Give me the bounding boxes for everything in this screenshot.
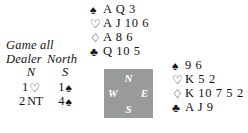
vulnerability-line: Game all <box>6 38 102 52</box>
hand-north-diamonds: ♢A 8 6 <box>90 30 149 44</box>
hand-east-diamonds: ♢K 10 7 5 2 <box>172 86 244 100</box>
spades-icon: ♠ <box>65 96 71 108</box>
hand-east-spades: ♠9 6 <box>172 58 244 72</box>
hearts-icon: ♡ <box>29 82 40 94</box>
conditions-block: Game all DealerNorth <box>6 38 102 66</box>
hearts-icon: ♡ <box>172 74 185 86</box>
hand-north-hearts-cards: A J 10 6 <box>103 16 149 30</box>
hand-east-clubs-cards: A J 9 <box>185 100 214 114</box>
auction-row: 2NT 4♠ <box>14 95 82 109</box>
clubs-icon: ♣ <box>90 46 103 58</box>
hand-east-hearts-cards: K 5 2 <box>185 72 216 86</box>
bid-level: 4 <box>58 94 64 108</box>
auction-row: 1♡ 1♠ <box>14 81 82 95</box>
compass-south-label: S <box>104 104 153 115</box>
hand-north-diamonds-cards: A 8 6 <box>103 30 133 44</box>
hand-east-spades-cards: 9 6 <box>185 58 202 72</box>
compass-north-label: N <box>104 73 153 84</box>
spades-icon: ♠ <box>172 60 185 72</box>
auction-header-north: N <box>14 66 48 81</box>
hand-east: ♠9 6 ♡K 5 2 ♢K 10 7 5 2 ♣A J 9 <box>172 58 244 114</box>
dealer-line: DealerNorth <box>6 52 102 66</box>
hearts-icon: ♡ <box>90 18 103 30</box>
auction-header-row: N S <box>14 66 82 81</box>
hand-north-clubs-cards: Q 10 5 <box>103 44 141 58</box>
dealer-value: North <box>47 52 77 66</box>
notrump-label: NT <box>27 94 43 108</box>
bid-level: 2 <box>19 94 25 108</box>
diamonds-icon: ♢ <box>172 88 185 100</box>
bid-level: 1 <box>58 80 64 94</box>
hand-east-hearts: ♡K 5 2 <box>172 72 244 86</box>
spades-icon: ♠ <box>65 82 71 94</box>
hand-north-spades: ♠A Q 3 <box>90 2 149 16</box>
compass-west-label: W <box>108 88 118 99</box>
compass-box: N W E S <box>104 69 153 118</box>
bid-north-2: 2NT <box>14 95 48 109</box>
clubs-icon: ♣ <box>172 102 185 114</box>
hand-east-clubs: ♣A J 9 <box>172 100 244 114</box>
bid-south-1: 1♠ <box>48 81 82 95</box>
spades-icon: ♠ <box>90 4 103 16</box>
bid-level: 1 <box>22 80 28 94</box>
hand-north-spades-cards: A Q 3 <box>103 2 136 16</box>
auction-table: N S 1♡ 1♠ 2NT 4♠ <box>14 66 82 109</box>
dealer-label: Dealer <box>6 52 42 66</box>
auction-header-south: S <box>48 66 82 81</box>
bid-north-1: 1♡ <box>14 81 48 95</box>
hand-north: ♠A Q 3 ♡A J 10 6 ♢A 8 6 ♣Q 10 5 <box>90 2 149 58</box>
vulnerability-text: Game all <box>6 38 54 52</box>
hand-north-clubs: ♣Q 10 5 <box>90 44 149 58</box>
diamonds-icon: ♢ <box>90 32 103 44</box>
compass-east-label: E <box>141 88 148 99</box>
hand-east-diamonds-cards: K 10 7 5 2 <box>185 86 244 100</box>
bid-south-2: 4♠ <box>48 95 82 109</box>
hand-north-hearts: ♡A J 10 6 <box>90 16 149 30</box>
